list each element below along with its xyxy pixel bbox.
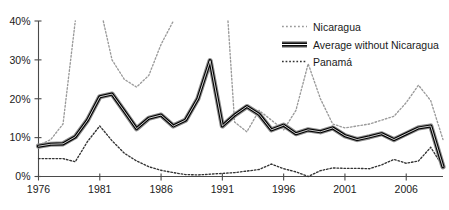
y-tick-label: 10% bbox=[9, 131, 30, 143]
y-tick-label: 0% bbox=[15, 170, 30, 182]
x-tick-labels: 1976198119861991199620012006 bbox=[27, 183, 418, 195]
series-line-average-halo bbox=[39, 61, 444, 167]
x-axis: 1976198119861991199620012006 bbox=[27, 174, 443, 195]
line-chart: 0%10%20%30%40% 1976198119861991199620012… bbox=[0, 0, 449, 210]
x-tick-label: 1986 bbox=[149, 183, 173, 195]
legend: Nicaragua Average without Nicaragua Pana… bbox=[282, 21, 439, 68]
x-tick-label: 1981 bbox=[88, 183, 112, 195]
y-axis: 0%10%20%30%40% bbox=[9, 15, 41, 183]
x-tick-label: 1991 bbox=[211, 183, 235, 195]
x-tick-label: 2001 bbox=[333, 183, 357, 195]
y-tick-label: 30% bbox=[9, 54, 30, 66]
x-tick-label: 1996 bbox=[272, 183, 296, 195]
legend-label-panama: Panamá bbox=[313, 56, 352, 68]
legend-label-average: Average without Nicaragua bbox=[313, 39, 439, 51]
y-tick-labels: 0%10%20%30%40% bbox=[9, 15, 30, 183]
x-tick-label: 2006 bbox=[395, 183, 419, 195]
chart-container: 0%10%20%30%40% 1976198119861991199620012… bbox=[0, 0, 449, 210]
x-tick-label: 1976 bbox=[27, 183, 51, 195]
legend-label-nicaragua: Nicaragua bbox=[313, 21, 361, 33]
y-tick-label: 20% bbox=[9, 93, 30, 105]
y-tick-label: 40% bbox=[9, 15, 30, 27]
